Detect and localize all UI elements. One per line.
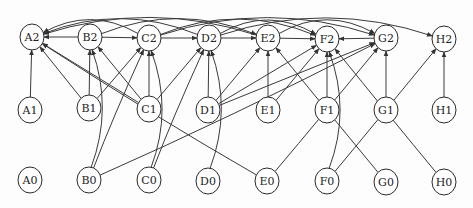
node-label: A1 [22, 104, 38, 117]
node-E0: E0 [255, 168, 279, 194]
node-E1: E1 [256, 97, 280, 123]
node-label: H0 [436, 176, 453, 189]
node-label: B2 [82, 31, 97, 44]
node-D1: D1 [196, 97, 220, 123]
node-label: A2 [24, 31, 40, 44]
node-label: C2 [141, 32, 156, 45]
node-H0: H0 [432, 169, 456, 195]
node-H1: H1 [432, 97, 456, 123]
node-label: G2 [378, 32, 394, 45]
node-C0: C0 [137, 167, 161, 193]
node-layer: A2B2C2D2E2F2G2H2A1B1C1D1E1F1G1H1A0B0C0D0… [18, 24, 456, 195]
node-F1: F1 [315, 97, 339, 123]
node-label: H1 [436, 104, 453, 117]
node-label: C0 [141, 174, 156, 187]
node-A2: A2 [20, 24, 44, 50]
node-G2: G2 [374, 25, 398, 51]
node-F0: F0 [315, 168, 339, 194]
node-label: G0 [378, 176, 394, 189]
node-label: D1 [200, 104, 216, 117]
node-label: B1 [81, 102, 96, 115]
node-B2: B2 [78, 24, 102, 50]
edge-D1-to-D2 [208, 51, 209, 97]
node-A1: A1 [18, 97, 42, 123]
node-H2: H2 [432, 26, 456, 52]
node-B0: B0 [77, 167, 101, 193]
node-label: D0 [200, 175, 216, 188]
node-F2: F2 [315, 26, 339, 52]
node-label: A0 [22, 174, 38, 187]
node-D2: D2 [197, 25, 221, 51]
node-label: F2 [320, 33, 335, 46]
graph-svg: A2B2C2D2E2F2G2H2A1B1C1D1E1F1G1H1A0B0C0D0… [0, 0, 473, 208]
node-label: H2 [436, 33, 453, 46]
node-label: B0 [81, 174, 96, 187]
graph-diagram: A2B2C2D2E2F2G2H2A1B1C1D1E1F1G1H1A0B0C0D0… [0, 0, 473, 208]
edge-C1-to-D2 [157, 48, 201, 100]
node-A0: A0 [18, 167, 42, 193]
node-label: D2 [201, 32, 217, 45]
edge-A1-to-A2 [30, 50, 31, 97]
node-label: E0 [259, 175, 274, 188]
node-B1: B1 [77, 95, 101, 121]
node-label: C1 [141, 103, 156, 116]
node-D0: D0 [196, 168, 220, 194]
node-E2: E2 [256, 25, 280, 51]
node-G0: G0 [374, 169, 398, 195]
node-C2: C2 [137, 25, 161, 51]
edge-E2-to-F2 [280, 38, 315, 39]
node-label: E2 [260, 32, 275, 45]
node-G1: G1 [374, 97, 398, 123]
edge-G2-to-F2 [339, 38, 374, 39]
edge-D2-to-A2 [44, 19, 198, 35]
edge-B2-to-C2 [102, 37, 137, 38]
node-label: F0 [320, 175, 335, 188]
node-label: G1 [378, 104, 394, 117]
node-C1: C1 [137, 96, 161, 122]
node-label: F1 [320, 104, 335, 117]
node-label: E1 [260, 104, 275, 117]
